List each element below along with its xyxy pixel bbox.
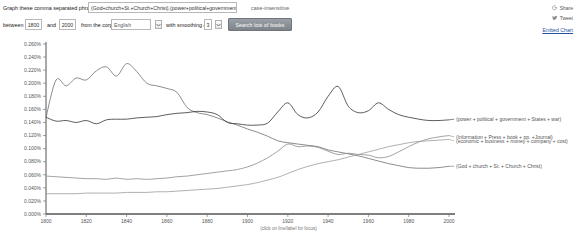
tweet-label: Tweet [560, 15, 573, 21]
query-row-options: between 1800 and 2000 from the corpus En… [3, 19, 577, 31]
y-tick-label: 0.160% [24, 106, 42, 112]
smoothing-dropdown-button[interactable] [215, 20, 222, 29]
chart-caption-text[interactable]: (click on line/label for focus) [260, 226, 317, 231]
y-tick-label: 0.260% [24, 41, 42, 47]
y-tick-label: 0.080% [24, 158, 42, 164]
smoothing-input[interactable]: 3 [204, 19, 212, 30]
y-tick-label: 0.100% [24, 145, 42, 151]
x-tick-label: 1860 [161, 218, 172, 224]
chevron-down-icon [216, 23, 221, 27]
y-tick-label: 0.240% [24, 54, 42, 60]
query-row-phrases: Graph these comma separated phrases: (Go… [3, 3, 577, 14]
corpus-select[interactable]: English [111, 19, 151, 30]
x-tick-label: 1980 [403, 218, 414, 224]
series-line-0[interactable] [46, 64, 449, 169]
x-tick-label: 1940 [323, 218, 334, 224]
between-label: between [3, 20, 23, 30]
query-bar: Graph these comma separated phrases: (Go… [0, 0, 577, 34]
series-legend-label-3[interactable]: (economic + business + money + company +… [456, 138, 568, 144]
ngram-viewer-app: Graph these comma separated phrases: (Go… [0, 0, 577, 239]
series-leader-2 [449, 136, 454, 137]
y-tick-label: 0.060% [24, 172, 42, 178]
x-tick-label: 1840 [121, 218, 132, 224]
phrase-input[interactable]: (God+church+St.+Church+Christ),(power+po… [88, 2, 237, 13]
series-legend-label-1[interactable]: (power + political + government + States… [456, 116, 561, 122]
chart-area: 0.000%0.020%0.040%0.060%0.080%0.100%0.12… [0, 36, 577, 239]
y-tick-label: 0.220% [24, 67, 42, 73]
series-leader-1 [449, 119, 454, 120]
twitter-bird-icon [552, 15, 558, 21]
series-line-1[interactable] [46, 86, 449, 125]
x-tick-label: 1820 [81, 218, 92, 224]
x-tick-label: 1920 [282, 218, 293, 224]
search-button[interactable]: Search lots of books [228, 18, 292, 31]
y-tick-label: 0.040% [24, 185, 42, 191]
x-tick-label: 2000 [443, 218, 454, 224]
x-tick-label: 1960 [363, 218, 374, 224]
chevron-down-icon [156, 23, 161, 27]
y-tick-label: 0.140% [24, 119, 42, 125]
series-line-2[interactable] [46, 136, 449, 180]
google-plus-icon [552, 5, 558, 11]
end-year-input[interactable]: 2000 [59, 19, 76, 30]
smoothing-label: with smoothing of [166, 20, 208, 30]
y-tick-label: 0.120% [24, 132, 42, 138]
start-year-input[interactable]: 1800 [25, 19, 42, 30]
embed-chart-link[interactable]: Embed Chart [542, 27, 573, 33]
case-insensitive-label[interactable]: case-insensitive [251, 3, 289, 13]
corpus-dropdown-button[interactable] [155, 20, 162, 29]
x-tick-label: 1880 [202, 218, 213, 224]
y-tick-label: 0.180% [24, 93, 42, 99]
and-label: and [47, 20, 56, 30]
share-label: Share [560, 5, 573, 11]
ngram-line-chart[interactable]: 0.000%0.020%0.040%0.060%0.080%0.100%0.12… [0, 36, 577, 226]
google-plus-share-button[interactable]: Share [525, 4, 573, 12]
phrase-input-value: (God+church+St.+Church+Christ),(power+po… [91, 3, 234, 13]
x-tick-label: 1900 [242, 218, 253, 224]
series-leader-3 [449, 139, 454, 140]
tweet-button[interactable]: Tweet [525, 14, 573, 22]
share-actions: Share Tweet [525, 4, 573, 24]
series-legend-label-0[interactable]: (God + church + St. + Church + Christ) [456, 163, 542, 169]
y-tick-label: 0.000% [24, 211, 42, 217]
chart-caption: (click on line/label for focus) [0, 226, 577, 231]
phrase-prompt-label: Graph these comma separated phrases: [3, 3, 99, 13]
x-tick-label: 1800 [40, 218, 51, 224]
y-tick-label: 0.020% [24, 198, 42, 204]
y-tick-label: 0.200% [24, 80, 42, 86]
